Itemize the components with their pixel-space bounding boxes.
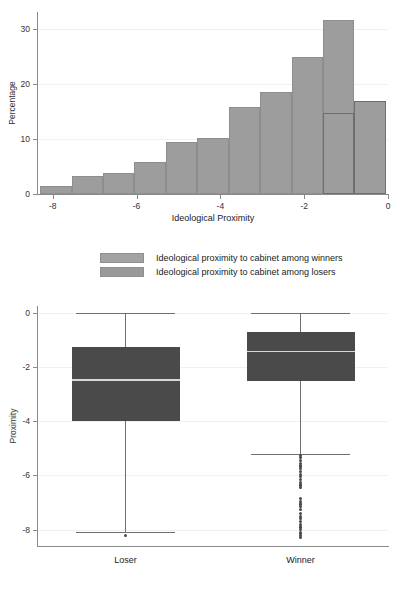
tick-mark [220, 195, 221, 199]
figure-root: Percentage Ideological Proximity 0102030… [0, 0, 411, 597]
legend-label-winners: Ideological proximity to cabinet among w… [156, 252, 343, 264]
histogram-bar-winners [292, 57, 323, 194]
y-tick-label: -8 [22, 525, 30, 535]
legend-swatch-winners [100, 253, 144, 263]
histogram-x-axis [37, 194, 389, 195]
histogram-legend: Ideological proximity to cabinet among w… [100, 252, 400, 280]
whisker-cap-upper [251, 313, 350, 314]
tick-mark [304, 195, 305, 199]
median-line [72, 379, 180, 381]
x-tick-label: -8 [49, 201, 57, 211]
histogram-bar-winners [103, 173, 134, 195]
histogram-bar-winners [197, 138, 228, 194]
tick-mark [388, 195, 389, 199]
tick-mark [33, 367, 37, 368]
whisker-cap-upper [76, 313, 175, 314]
whisker-upper [125, 313, 126, 347]
legend-entry-losers: Ideological proximity to cabinet among l… [100, 266, 400, 278]
tick-mark [33, 194, 37, 195]
x-tick-label: -6 [133, 201, 141, 211]
x-tick-label: -4 [217, 201, 225, 211]
y-tick-label: 0 [25, 308, 30, 318]
histogram-bar-winners [134, 162, 165, 194]
tick-mark [33, 84, 37, 85]
histogram-x-axis-title: Ideological Proximity [172, 213, 255, 223]
tick-mark [53, 195, 54, 199]
y-tick-label: -4 [22, 416, 30, 426]
x-tick-label: 0 [386, 201, 391, 211]
tick-mark [33, 139, 37, 140]
histogram-bar-losers [323, 113, 354, 194]
boxplot-plot-area [38, 306, 388, 546]
tick-mark [33, 475, 37, 476]
category-label-loser: Loser [114, 555, 137, 565]
y-tick-label: -6 [22, 470, 30, 480]
histogram-bar-winners [260, 92, 291, 194]
outlier-point [124, 534, 127, 537]
histogram-bar-winners [166, 142, 197, 194]
histogram-bar-losers [354, 101, 385, 194]
whisker-upper [300, 313, 301, 332]
box-winner [247, 332, 355, 381]
tick-mark [33, 421, 37, 422]
tick-mark [33, 29, 37, 30]
legend-swatch-losers [100, 267, 144, 277]
tick-mark [33, 530, 37, 531]
gridline [38, 421, 388, 422]
y-tick-label: 20 [21, 79, 30, 89]
boxplot-y-axis-title: Proximity [8, 409, 18, 444]
histogram-panel: Percentage Ideological Proximity 0102030… [0, 0, 411, 240]
legend-entry-winners: Ideological proximity to cabinet among w… [100, 252, 400, 264]
category-label-winner: Winner [286, 555, 315, 565]
outlier-point [299, 508, 302, 511]
tick-mark [137, 195, 138, 199]
box-loser [72, 347, 180, 422]
histogram-y-axis-title: Percentage [7, 81, 17, 124]
histogram-bar-winners [72, 176, 103, 194]
y-tick-label: 30 [21, 24, 30, 34]
outlier-point [299, 486, 302, 489]
boxplot-y-axis [37, 306, 38, 546]
histogram-bar-winners [229, 107, 260, 194]
median-line [247, 351, 355, 353]
whisker-lower [125, 421, 126, 532]
y-tick-label: -2 [22, 362, 30, 372]
histogram-plot-area [38, 12, 388, 194]
y-tick-label: 0 [25, 189, 30, 199]
histogram-bar-winners [40, 186, 71, 194]
x-tick-label: -2 [300, 201, 308, 211]
boxplot-x-axis [37, 546, 389, 547]
boxplot-panel: Proximity LoserWinner 0-2-4-6-8 [0, 292, 411, 597]
gridline [38, 530, 388, 531]
outlier-point [299, 536, 302, 539]
whisker-lower [300, 381, 301, 454]
y-tick-label: 10 [21, 134, 30, 144]
histogram-y-axis [37, 12, 38, 194]
tick-mark [33, 313, 37, 314]
legend-label-losers: Ideological proximity to cabinet among l… [156, 266, 336, 278]
gridline [38, 475, 388, 476]
